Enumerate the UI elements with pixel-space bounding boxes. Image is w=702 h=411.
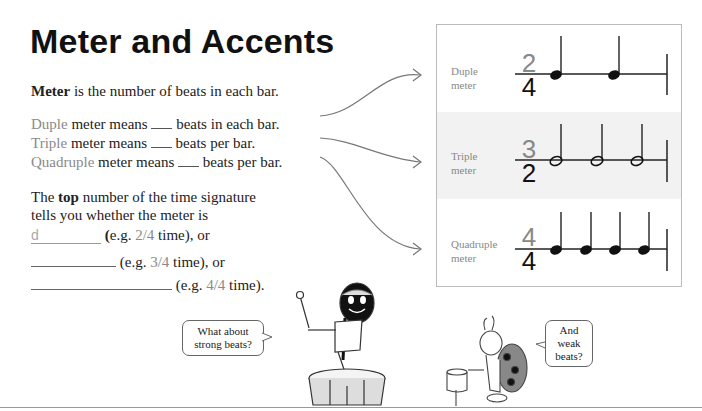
ladybug-character-icon (447, 316, 527, 406)
drummer-note-character-icon (297, 283, 386, 405)
illustrations (0, 0, 702, 411)
ground-divider (0, 407, 702, 408)
